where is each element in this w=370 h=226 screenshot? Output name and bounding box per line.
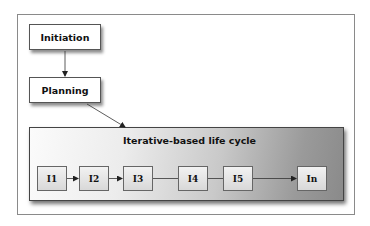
iteration-box-i4: I4 (178, 166, 208, 191)
planning-box: Planning (29, 77, 101, 103)
planning-label: Planning (42, 85, 89, 96)
iteration-label: I1 (47, 174, 57, 184)
iteration-label: I5 (233, 174, 243, 184)
iteration-label: I4 (188, 174, 198, 184)
iterative-life-cycle-title: Iterative-based life cycle (123, 135, 256, 146)
iteration-box-in: In (297, 166, 327, 191)
initiation-box: Initiation (29, 24, 101, 50)
iteration-box-i5: I5 (223, 166, 253, 191)
initiation-label: Initiation (41, 32, 90, 43)
iteration-box-i3: I3 (123, 166, 153, 191)
iteration-box-i2: I2 (79, 166, 109, 191)
iteration-label: I3 (133, 174, 143, 184)
iteration-box-i1: I1 (37, 166, 67, 191)
iteration-label: I2 (89, 174, 99, 184)
iteration-label: In (307, 174, 318, 184)
